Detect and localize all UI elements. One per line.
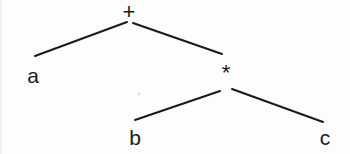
tree-node-leaf-b: b [129,127,141,148]
tree-edges-layer [0,0,350,154]
edge-root-a [35,22,127,56]
edge-mul-c [232,89,323,122]
edge-root-mul [133,23,222,54]
scan-speck-artifact [138,93,141,96]
tree-node-root-plus: + [123,1,136,23]
expression-tree-diagram: + a * b c [0,0,350,154]
tree-node-leaf-a: a [27,65,39,86]
tree-node-leaf-c: c [320,127,331,148]
edge-mul-b [135,91,220,120]
tree-node-multiply: * [222,62,231,84]
